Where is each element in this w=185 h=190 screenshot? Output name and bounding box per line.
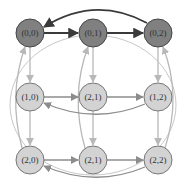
node-label: (1,0) <box>21 92 38 102</box>
node-1-0: (1,0) <box>16 83 44 111</box>
node-label: (1,2) <box>149 92 166 102</box>
node-1-1: (2,1) <box>79 83 107 111</box>
node-0-1: (0,1) <box>79 19 107 47</box>
node-1-2: (1,2) <box>144 83 172 111</box>
nodes: (0,0) (0,1) (0,2) (1,0) (2,1) (1,2) (2,0… <box>16 19 172 174</box>
node-0-2: (0,2) <box>144 19 172 47</box>
node-label: (0,2) <box>149 28 166 38</box>
node-2-0: (2,0) <box>16 146 44 174</box>
node-label: (0,1) <box>84 28 101 38</box>
node-label: (2,0) <box>21 155 38 165</box>
node-2-2: (2,2) <box>144 146 172 174</box>
node-label: (2,1) <box>84 155 101 165</box>
grid-cycle-graph: (0,0) (0,1) (0,2) (1,0) (2,1) (1,2) (2,0… <box>0 0 185 190</box>
node-2-1: (2,1) <box>79 146 107 174</box>
node-label: (2,1) <box>84 92 101 102</box>
node-label: (2,2) <box>149 155 166 165</box>
node-label: (0,0) <box>21 28 38 38</box>
node-0-0: (0,0) <box>16 19 44 47</box>
